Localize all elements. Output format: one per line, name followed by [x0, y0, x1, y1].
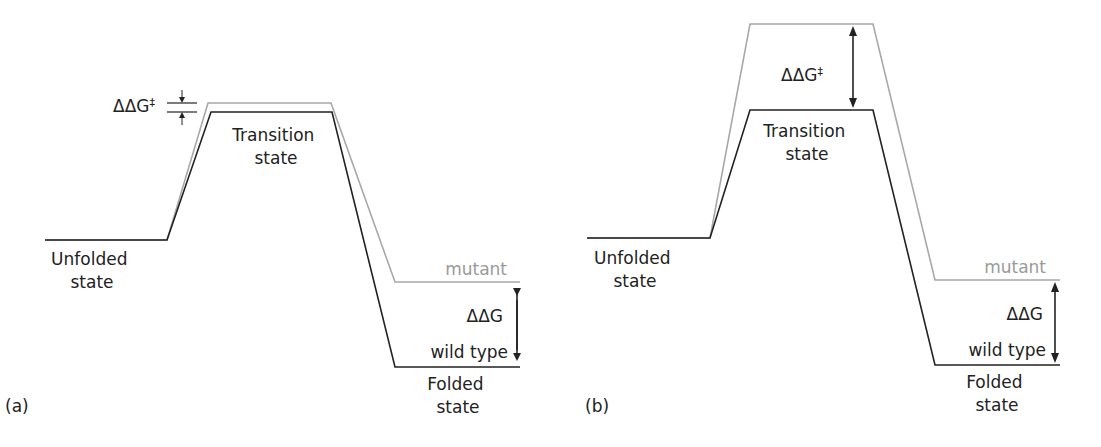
- wildtype-label-a: wild type: [430, 342, 508, 362]
- wildtype-label-b: wild type: [968, 340, 1046, 360]
- panel-label-b: (b): [585, 396, 609, 416]
- folded-state-label-a: Folded state: [427, 374, 489, 417]
- ddg-ts-label-b: ΔΔG‡: [781, 65, 823, 85]
- ddg-label-a: ΔΔG: [467, 306, 503, 326]
- panel-b: ΔΔG‡ Transition state Unfolded state mut…: [585, 24, 1060, 416]
- unfolded-state-label-b: Unfolded state: [594, 248, 676, 291]
- transition-state-label-b: Transition state: [762, 121, 851, 164]
- panel-label-a: (a): [5, 396, 29, 416]
- energy-diagram: ΔΔG‡ Transition state Unfolded state mut…: [0, 0, 1101, 447]
- transition-state-label-a: Transition state: [231, 125, 320, 168]
- folded-state-label-b: Folded state: [966, 372, 1028, 415]
- ddg-ts-indicator-a: [167, 90, 197, 125]
- unfolded-state-label-a: Unfolded state: [51, 249, 133, 292]
- panel-a: ΔΔG‡ Transition state Unfolded state mut…: [5, 90, 520, 417]
- mutant-label-b: mutant: [984, 257, 1046, 277]
- ddg-label-b: ΔΔG: [1007, 304, 1043, 324]
- mutant-label-a: mutant: [445, 259, 507, 279]
- ddg-ts-label-a: ΔΔG‡: [113, 96, 155, 116]
